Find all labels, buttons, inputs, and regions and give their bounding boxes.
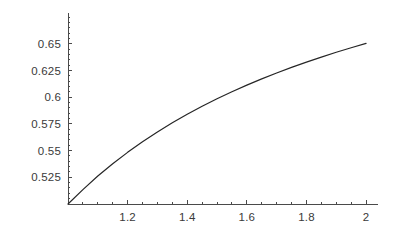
- y-axis-tick-label: 0.625: [31, 65, 61, 77]
- y-axis-major-ticks: [68, 44, 72, 177]
- data-series-curve: [68, 43, 366, 204]
- x-axis-tick-label: 1.2: [119, 211, 136, 223]
- x-axis-major-ticks: [128, 200, 366, 204]
- y-axis-tick-label: 0.575: [31, 118, 61, 130]
- y-axis-tick-label: 0.525: [31, 171, 61, 183]
- y-axis-tick-label: 0.65: [38, 38, 61, 50]
- x-axis-tick-label: 2: [363, 211, 370, 223]
- y-axis-tick-label: 0.55: [38, 145, 61, 157]
- x-axis-tick-label: 1.6: [239, 211, 256, 223]
- chart-figure: 0.5250.550.5750.60.6250.65 1.21.41.61.82: [0, 0, 393, 235]
- y-axis-tick-label: 0.6: [44, 91, 61, 103]
- x-axis-tick-label: 1.8: [298, 211, 315, 223]
- x-axis-tick-label: 1.4: [179, 211, 196, 223]
